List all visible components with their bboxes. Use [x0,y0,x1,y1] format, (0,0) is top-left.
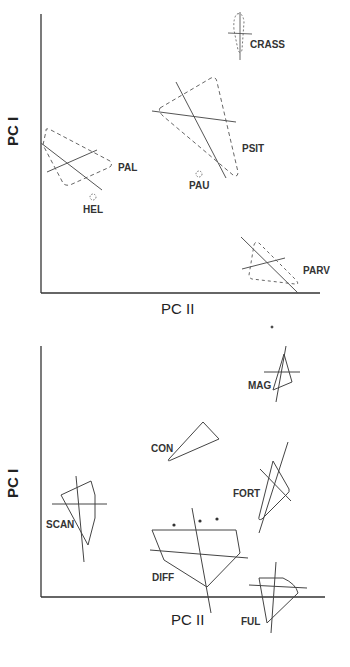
group-label-diff: DIFF [152,572,174,583]
bottom-plot-panel: PC I PC II MAG CON FORT SCAN DIFF FUL [0,310,350,667]
group-parv-shape [241,237,298,293]
bottom-x-axis-label: PC II [171,611,204,628]
group-label-fort: FORT [233,488,260,499]
group-label-scan: SCAN [46,519,74,530]
group-con-shape [168,422,219,461]
group-psit-shape [152,78,238,179]
top-plot-canvas [0,0,350,310]
group-fort-shape [259,442,291,533]
group-label-psit: PSIT [242,143,264,154]
top-y-axis-label: PC I [4,117,21,146]
group-pau-shape [196,171,202,177]
bottom-y-axis-label: PC I [4,469,21,498]
group-label-hel: HEL [83,204,103,215]
group-label-ful: FUL [241,616,260,627]
group-label-pau: PAU [189,180,209,191]
group-pal-shape [41,129,112,190]
group-label-parv: PARV [303,265,330,276]
group-hel-shape [90,194,96,200]
group-label-con: CON [151,443,173,454]
group-label-pal: PAL [118,162,137,173]
group-crass-shape [228,12,252,60]
top-plot-panel: PC I PC II CRASS PSIT PAL PAU HEL PARV [0,0,350,310]
group-label-crass: CRASS [250,39,285,50]
group-label-mag: MAG [248,380,271,391]
